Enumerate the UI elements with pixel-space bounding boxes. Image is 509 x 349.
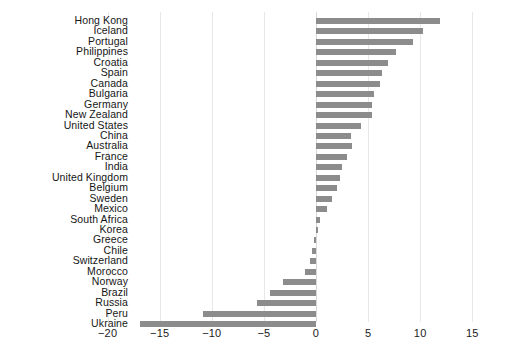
bar: [316, 18, 440, 24]
x-tick-label: 10: [400, 327, 440, 339]
bar-row: Philippines: [0, 47, 509, 57]
plot-area: Hong KongIcelandPortugalPhilippinesCroat…: [0, 0, 509, 349]
bar-row: Australia: [0, 141, 509, 151]
bar-chart: Hong KongIcelandPortugalPhilippinesCroat…: [0, 0, 509, 349]
bar-row: Sweden: [0, 194, 509, 204]
bar-row: Croatia: [0, 58, 509, 68]
bar: [316, 112, 372, 118]
bar: [316, 81, 380, 87]
bar: [316, 164, 342, 170]
bar-row: Russia: [0, 298, 509, 308]
bar-row: France: [0, 152, 509, 162]
bar: [316, 217, 320, 223]
bar: [316, 154, 347, 160]
bar: [316, 60, 388, 66]
bar: [316, 133, 351, 139]
bar-row: Norway: [0, 277, 509, 287]
bar-row: Korea: [0, 225, 509, 235]
bar: [314, 237, 316, 243]
bar: [316, 175, 340, 181]
bar-row: Canada: [0, 79, 509, 89]
bar-row: United States: [0, 121, 509, 131]
x-tick-label: 0: [296, 327, 336, 339]
bar-row: Peru: [0, 309, 509, 319]
bar: [316, 196, 332, 202]
bar: [316, 91, 374, 97]
bar: [305, 269, 316, 275]
bar: [316, 143, 352, 149]
x-tick-label: 15: [452, 327, 492, 339]
bar: [316, 185, 337, 191]
bar-row: Spain: [0, 68, 509, 78]
bar: [270, 290, 316, 296]
bar: [257, 300, 316, 306]
x-tick-label: 5: [348, 327, 388, 339]
bar: [316, 39, 413, 45]
bar: [312, 248, 316, 254]
bar: [203, 311, 316, 317]
bar-row: China: [0, 131, 509, 141]
bar-row: Hong Kong: [0, 16, 509, 26]
bar: [316, 28, 423, 34]
bar-row: Brazil: [0, 288, 509, 298]
bar: [316, 49, 396, 55]
bar: [283, 279, 316, 285]
x-tick-label: −10: [192, 327, 232, 339]
bar-row: Greece: [0, 235, 509, 245]
bar-row: South Africa: [0, 215, 509, 225]
bar-row: Morocco: [0, 267, 509, 277]
x-tick-label: −5: [244, 327, 284, 339]
x-tick-label: −15: [140, 327, 180, 339]
bar-row: Switzerland: [0, 256, 509, 266]
bar: [316, 70, 382, 76]
bar: [316, 123, 361, 129]
bar: [316, 102, 372, 108]
bar-row: Bulgaria: [0, 89, 509, 99]
bar: [310, 258, 316, 264]
bar: [316, 227, 318, 233]
bar-row: United Kingdom: [0, 173, 509, 183]
bar-row: Belgium: [0, 183, 509, 193]
x-tick-label: −20: [88, 327, 128, 339]
bar-row: Iceland: [0, 26, 509, 36]
bar: [316, 206, 327, 212]
